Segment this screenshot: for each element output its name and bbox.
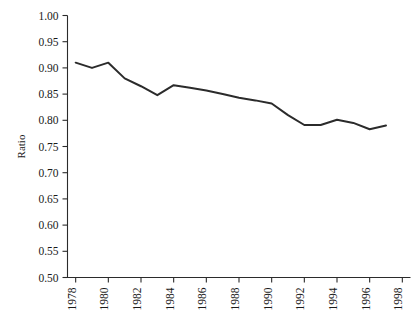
x-tick-label: 1990: [262, 287, 274, 310]
line-chart: 0.500.550.600.650.700.750.800.850.900.95…: [0, 0, 419, 321]
y-tick-label: 0.90: [38, 62, 58, 74]
x-tick-label: 1978: [66, 287, 78, 310]
x-tick-label: 1980: [98, 287, 110, 310]
x-tick-label: 1996: [360, 287, 372, 310]
x-tick-label: 1986: [196, 287, 208, 310]
x-tick-label: 1994: [327, 287, 339, 310]
chart-figure: 0.500.550.600.650.700.750.800.850.900.95…: [0, 0, 419, 321]
plot-background: [0, 0, 419, 321]
x-tick-label: 1982: [131, 287, 143, 310]
x-tick-label: 1992: [294, 287, 306, 310]
x-tick-label: 1984: [164, 287, 176, 310]
y-tick-label: 0.80: [38, 114, 58, 126]
y-tick-label: 0.85: [38, 88, 58, 100]
y-axis-label: Ratio: [15, 134, 27, 158]
y-tick-label: 0.50: [38, 272, 58, 284]
y-tick-label: 0.65: [38, 193, 58, 205]
x-tick-label: 1988: [229, 287, 241, 310]
y-tick-label: 0.55: [38, 245, 58, 257]
y-tick-label: 1.00: [38, 10, 58, 22]
y-tick-label: 0.95: [38, 36, 58, 48]
y-tick-label: 0.75: [38, 141, 58, 153]
x-tick-label: 1998: [392, 287, 404, 310]
y-tick-label: 0.70: [38, 167, 58, 179]
y-tick-label: 0.60: [38, 219, 58, 231]
